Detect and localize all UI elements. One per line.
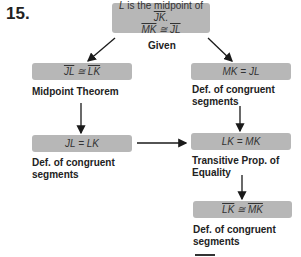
reason-right3: Def. of congruentsegments (193, 224, 276, 248)
given-reason: Given (148, 40, 176, 52)
reason-left1: Midpoint Theorem (32, 86, 119, 98)
given-line2: MK ≅ JL (141, 24, 180, 36)
reason-left2: Def. of congruentsegments (32, 157, 115, 181)
flow-arrows (0, 0, 301, 257)
given-box: L is the midpoint of JK. MK ≅ JL (112, 3, 210, 33)
given-line1: L is the midpoint of JK. (112, 0, 210, 24)
reason-right2: Transitive Prop. ofEquality (192, 155, 279, 179)
arrow-given-to-left1 (88, 38, 115, 61)
statement-box-left1: JL ≅ LK (32, 63, 132, 80)
reason-right1: Def. of congruentsegments (192, 84, 275, 108)
statement-box-left2: JL = LK (32, 135, 132, 152)
statement-box-right3: LK ≅ MK (193, 201, 292, 218)
divider (195, 254, 215, 256)
statement-box-right1: MK = JL (191, 63, 291, 80)
arrow-given-to-right1 (208, 38, 232, 61)
statement-box-right2: LK = MK (191, 133, 291, 150)
